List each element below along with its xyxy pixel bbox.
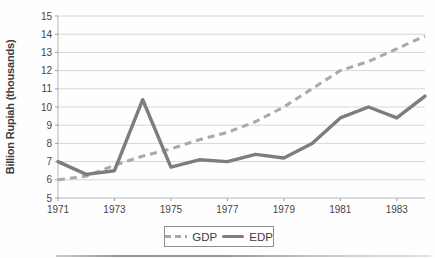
y-tick-label: 13 — [41, 47, 53, 58]
x-tick-label: 1981 — [329, 204, 352, 215]
y-tick-label: 5 — [46, 193, 52, 204]
x-tick-label: 1983 — [386, 204, 409, 215]
legend-label-edp: EDP — [249, 231, 273, 243]
gdp-edp-line-chart: 5678910111213141519711973197519771979198… — [0, 0, 435, 258]
scanned-line-chart-page: 5678910111213141519711973197519771979198… — [0, 0, 435, 258]
x-tick-label: 1975 — [160, 204, 183, 215]
x-tick-label: 1971 — [47, 204, 70, 215]
scan-shadow-artifact — [56, 255, 431, 257]
x-tick-label: 1977 — [216, 204, 239, 215]
gdp-dashed-line-sample — [165, 235, 187, 238]
edp-solid-line-sample — [222, 235, 244, 238]
y-axis-title: Billion Rupiah (thousands) — [4, 39, 16, 174]
x-tick-label: 1973 — [103, 204, 126, 215]
y-tick-label: 11 — [42, 83, 53, 94]
y-tick-label: 6 — [46, 174, 52, 185]
y-tick-label: 14 — [41, 29, 53, 40]
edp-line — [58, 96, 425, 174]
legend-label-gdp: GDP — [192, 231, 217, 243]
y-tick-label: 15 — [41, 11, 53, 22]
y-tick-label: 10 — [41, 102, 53, 113]
y-tick-label: 8 — [46, 138, 52, 149]
y-tick-label: 12 — [41, 65, 53, 76]
x-tick-label: 1979 — [273, 204, 296, 215]
y-tick-label: 9 — [46, 120, 52, 131]
y-tick-label: 7 — [46, 156, 52, 167]
legend: GDP EDP — [164, 226, 274, 247]
